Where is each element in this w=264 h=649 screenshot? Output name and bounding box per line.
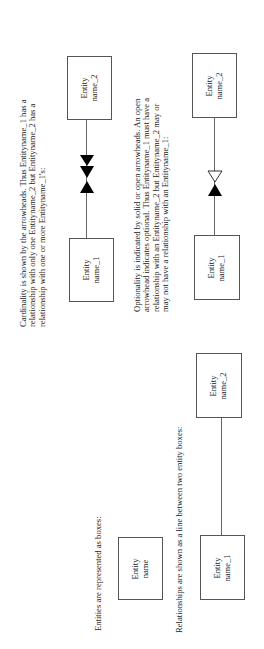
label-line: name_2: [219, 372, 229, 399]
entity-label: Entity name_2: [80, 74, 99, 101]
entity-box-name-1: Entity name_1: [200, 535, 245, 600]
label-line: Entity: [205, 72, 215, 99]
entity-box-name-2: Entity name_2: [196, 353, 242, 418]
label-line: name_1: [223, 554, 233, 581]
relationship-line: [221, 418, 222, 535]
cardinality-description: Cardinality is shown by the arrowheads. …: [19, 99, 47, 327]
text-line: may not have a relationship with an Enti…: [161, 98, 170, 312]
entity-label: Entity name_2: [205, 72, 224, 99]
label-line: name_2: [90, 74, 100, 101]
label-line: name: [141, 558, 151, 579]
cardinality-arrowheads-icon: [78, 153, 96, 195]
label-line: Entity: [82, 256, 92, 283]
label-line: name_2: [215, 72, 225, 99]
entity-label: Entity name_1: [82, 256, 101, 283]
label-line: Entity: [80, 74, 90, 101]
label-line: Entity: [131, 558, 141, 579]
label-line: name_1: [217, 254, 227, 281]
relationships-description: Relationships are shown as a line betwee…: [175, 427, 184, 633]
entity-label: Entity name_1: [213, 554, 232, 581]
label-line: Entity: [213, 554, 223, 581]
entity-box-name-1: Entity name_1: [69, 238, 114, 302]
entity-label: Entity name_2: [209, 372, 228, 399]
label-line: name_1: [92, 256, 102, 283]
entity-label: Entity name: [131, 558, 150, 579]
text-line: relationship with one or more Entityname…: [38, 99, 47, 327]
entity-box-name-1: Entity name_1: [194, 235, 240, 300]
entity-box-name-2: Entity name_2: [67, 56, 112, 120]
entities-description: Entities are represented as boxes:: [94, 516, 103, 631]
optionality-arrowheads-icon: [206, 170, 224, 198]
entity-label: Entity name_1: [207, 254, 226, 281]
entity-box: Entity name: [118, 537, 163, 600]
optionality-description: Optionality is indicated by solid or ope…: [133, 98, 171, 312]
entity-box-name-2: Entity name_2: [192, 53, 237, 118]
